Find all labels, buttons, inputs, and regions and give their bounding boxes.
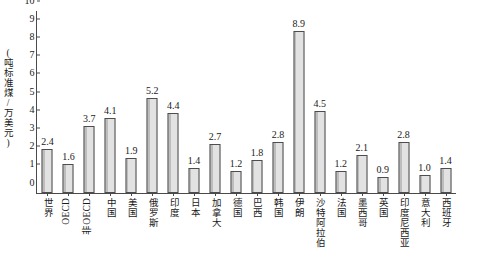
bar[interactable] xyxy=(126,158,137,193)
x-tick-mark xyxy=(425,193,426,196)
bar[interactable] xyxy=(147,98,158,193)
x-axis-label-19: 西班牙 xyxy=(438,198,451,228)
bar-value-label: 1.2 xyxy=(335,158,348,169)
x-tick-mark xyxy=(194,193,195,196)
y-tick-1: 1 xyxy=(30,158,38,169)
y-tick-label: 4 xyxy=(30,104,38,114)
x-tick-mark xyxy=(320,193,321,196)
x-tick-mark xyxy=(257,193,258,196)
x-axis-label-3: 中国 xyxy=(103,198,116,218)
bar[interactable] xyxy=(272,142,283,193)
bar[interactable] xyxy=(398,142,409,193)
y-tick-8: 8 xyxy=(30,31,38,42)
bar-slot: 2.4 xyxy=(37,11,58,193)
bar-chart: (吨标准煤/万美元) 109876543210 2.41.63.74.11.95… xyxy=(0,0,481,275)
y-tick-label: 3 xyxy=(30,122,38,132)
bar-value-label: 1.2 xyxy=(230,158,243,169)
bar-slot: 4.4 xyxy=(163,11,184,193)
bar-value-label: 8.9 xyxy=(293,18,306,29)
y-tick-label: 10 xyxy=(25,0,38,5)
x-axis-label-13: 沙特阿拉伯 xyxy=(312,198,325,248)
bar[interactable] xyxy=(231,171,242,193)
bar-value-label: 2.8 xyxy=(397,129,410,140)
bar-slot: 0.9 xyxy=(372,11,393,193)
bar-slot: 4.1 xyxy=(100,11,121,193)
x-axis-label-11: 韩国 xyxy=(270,198,283,218)
bar-value-label: 1.4 xyxy=(188,155,201,166)
bar-slot: 1.4 xyxy=(435,11,456,193)
bar-slot: 1.8 xyxy=(247,11,268,193)
x-tick-mark xyxy=(47,193,48,196)
bar-value-label: 2.4 xyxy=(41,136,54,147)
x-axis-label-10: 巴西 xyxy=(249,198,262,218)
bar[interactable] xyxy=(377,177,388,193)
bar-value-label: 2.8 xyxy=(272,129,285,140)
y-tick-label: 5 xyxy=(30,86,38,96)
bar-value-label: 2.7 xyxy=(209,131,222,142)
bar[interactable] xyxy=(314,111,325,193)
bar[interactable] xyxy=(168,113,179,193)
x-tick-mark xyxy=(215,193,216,196)
x-tick-mark xyxy=(383,193,384,196)
bar-value-label: 1.4 xyxy=(439,155,452,166)
y-tick-4: 4 xyxy=(30,104,38,115)
y-tick-0: 0 xyxy=(30,177,38,188)
bar-slot: 1.2 xyxy=(226,11,247,193)
bar[interactable] xyxy=(251,160,262,193)
bar-value-label: 0.9 xyxy=(376,164,389,175)
x-tick-mark xyxy=(362,193,363,196)
x-axis-label-7: 日本 xyxy=(187,198,200,218)
bar-value-label: 1.9 xyxy=(125,145,138,156)
x-tick-mark xyxy=(68,193,69,196)
y-tick-2: 2 xyxy=(30,140,38,151)
x-tick-mark xyxy=(341,193,342,196)
x-tick-mark xyxy=(152,193,153,196)
bar[interactable] xyxy=(440,168,451,193)
bar-slot: 4.5 xyxy=(309,11,330,193)
x-tick-mark xyxy=(131,193,132,196)
bar[interactable] xyxy=(63,164,74,193)
y-tick-label: 2 xyxy=(30,141,38,151)
bar-value-label: 3.7 xyxy=(83,113,96,124)
x-axis-label-9: 德国 xyxy=(229,198,242,218)
y-tick-mark xyxy=(37,0,40,1)
x-axis-label-0: 世界 xyxy=(40,198,53,218)
y-axis-title: (吨标准煤/万美元) xyxy=(0,0,16,195)
bar[interactable] xyxy=(293,31,304,193)
y-tick-label: 9 xyxy=(30,13,38,23)
x-axis-label-6: 印度 xyxy=(166,198,179,218)
bar-slot: 2.8 xyxy=(393,11,414,193)
x-axis-label-15: 墨西哥 xyxy=(354,198,367,228)
bar[interactable] xyxy=(42,149,53,193)
x-axis-label-16: 英国 xyxy=(375,198,388,218)
bar-slot: 2.8 xyxy=(267,11,288,193)
bar[interactable] xyxy=(189,168,200,193)
y-tick-7: 7 xyxy=(30,49,38,60)
x-tick-mark xyxy=(236,193,237,196)
x-axis-label-2: 非OECD xyxy=(82,198,95,235)
bar-slot: 1.9 xyxy=(121,11,142,193)
bar-value-label: 4.1 xyxy=(104,105,117,116)
y-tick-6: 6 xyxy=(30,67,38,78)
x-axis-label-18: 意大利 xyxy=(417,198,430,228)
y-tick-label: 6 xyxy=(30,68,38,78)
bar[interactable] xyxy=(419,175,430,193)
bar[interactable] xyxy=(210,144,221,193)
bar-value-label: 2.1 xyxy=(355,142,368,153)
bar[interactable] xyxy=(335,171,346,193)
bar[interactable] xyxy=(105,118,116,193)
x-axis-label-4: 美国 xyxy=(124,198,137,218)
bar-slot: 5.2 xyxy=(142,11,163,193)
x-tick-mark xyxy=(173,193,174,196)
bar[interactable] xyxy=(84,126,95,193)
bar-slot: 1.0 xyxy=(414,11,435,193)
x-axis-label-1: OECD xyxy=(61,198,74,225)
bar-value-label: 4.5 xyxy=(314,98,327,109)
y-tick-label: 8 xyxy=(30,31,38,41)
x-tick-mark xyxy=(299,193,300,196)
bar-slot: 1.2 xyxy=(330,11,351,193)
bar[interactable] xyxy=(356,155,367,193)
bar-slot: 1.4 xyxy=(184,11,205,193)
x-tick-mark xyxy=(110,193,111,196)
bar-value-label: 1.0 xyxy=(418,162,431,173)
